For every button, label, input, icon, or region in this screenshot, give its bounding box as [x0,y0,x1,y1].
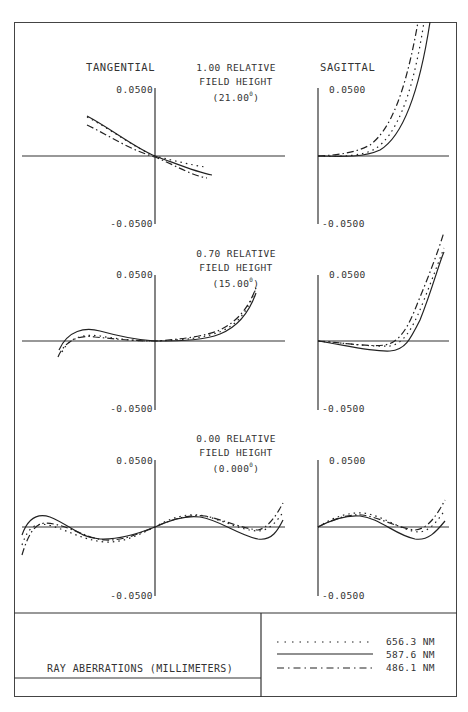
row2-field-line1: 0.70 RELATIVE [186,248,286,259]
row3-tan-bottom-label: -0.0500 [100,590,153,601]
row1-tan-bottom-label: -0.0500 [100,218,153,229]
footer-title: RAY ABERRATIONS (MILLIMETERS) [47,663,233,674]
row2-tan-bottom-label: -0.0500 [100,403,153,414]
tangential-header: TANGENTIAL [86,61,155,73]
row1-tan-656 [87,117,205,167]
legend-label-486: 486.1 NM [386,662,435,673]
row3-field-angle: (0.0000) [186,461,286,474]
row2-sag-656 [318,248,444,346]
row2-sag-top-label: 0.0500 [329,269,366,280]
row3-sag-top-label: 0.0500 [329,455,366,466]
row3-field-line1: 0.00 RELATIVE [186,433,286,444]
row2-field-line2: FIELD HEIGHT [186,262,286,273]
row3-sag-656 [318,510,445,532]
row3-sag-486 [318,500,445,530]
row2-sag-486 [318,232,444,346]
row2-sag-587 [318,252,444,351]
row3-sag-bottom-label: -0.0500 [322,590,365,601]
row2-field-angle: (15.000) [186,276,286,289]
row2-tan-top-label: 0.0500 [100,269,153,280]
row1-sag-top-label: 0.0500 [329,84,366,95]
row1-tan-486 [87,125,207,178]
legend-label-587: 587.6 NM [386,649,435,660]
row3-field-line2: FIELD HEIGHT [186,447,286,458]
row3-tan-top-label: 0.0500 [100,455,153,466]
row1-field-angle: (21.000) [186,90,286,103]
row2-sag-bottom-label: -0.0500 [322,403,365,414]
row1-field-line1: 1.00 RELATIVE [186,62,286,73]
row2-tan-486 [58,285,257,357]
row1-sag-bottom-label: -0.0500 [322,218,365,229]
sagittal-header: SAGITTAL [320,61,375,73]
row2-tan-656 [62,288,256,352]
row1-tan-587 [87,116,212,175]
legend-label-656: 656.3 NM [386,636,435,647]
ray-aberration-plots [0,0,468,712]
row1-field-line2: FIELD HEIGHT [186,76,286,87]
row1-tan-top-label: 0.0500 [100,84,153,95]
